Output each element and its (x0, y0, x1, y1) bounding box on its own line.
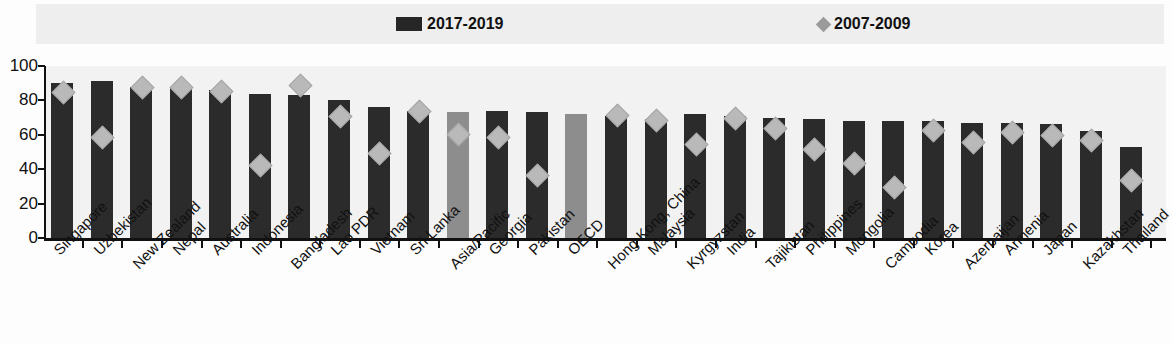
bar-hong-kong-china (605, 116, 627, 238)
x-axis-labels: SingaporeUzbekistanNew ZealandNepalAustr… (0, 244, 1172, 345)
legend-bar-swatch-icon (396, 17, 422, 31)
legend-label-2017-2019: 2017-2019 (427, 15, 504, 33)
chart-legend: 2017-2019 2007-2009 (36, 4, 1164, 44)
y-axis-label: 40 (0, 160, 38, 177)
y-axis-label: 60 (0, 126, 38, 143)
y-axis-label: 100 (0, 57, 38, 74)
chart-figure: 2017-2019 2007-2009 100806040200 Singapo… (0, 0, 1172, 345)
y-axis-label: 20 (0, 195, 38, 212)
legend-item-2017-2019: 2017-2019 (396, 15, 504, 33)
legend-item-2007-2009: 2007-2009 (818, 15, 911, 33)
legend-diamond-swatch-icon (816, 16, 832, 32)
y-axis-label: 80 (0, 91, 38, 108)
data-series-layer (44, 66, 1166, 238)
legend-label-2007-2009: 2007-2009 (834, 15, 911, 33)
bar-singapore (51, 83, 73, 238)
bar-australia (209, 90, 231, 238)
